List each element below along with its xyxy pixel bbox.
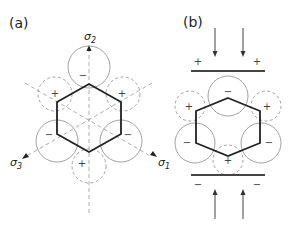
panel-a-label: (a) — [9, 15, 29, 31]
sign-bottom: + — [224, 155, 232, 166]
plate-bottom-sign-right: − — [253, 179, 261, 190]
sign-bottom: + — [78, 158, 86, 169]
arrow-up-icon — [241, 189, 246, 195]
top-arrows — [215, 28, 243, 54]
bottom-arrows — [215, 192, 243, 219]
plate-bottom-sign-left: − — [194, 179, 202, 190]
sign-top: − — [224, 86, 232, 97]
sigma1-label: σ1 — [158, 156, 170, 171]
sign-lower-left: − — [45, 129, 53, 140]
sign-lower-right: − — [265, 137, 273, 148]
sigma1-arrow-icon — [150, 151, 157, 157]
sign-lower-left: − — [183, 137, 191, 148]
sigma2-label: σ2 — [84, 30, 96, 45]
sign-upper-right: + — [118, 88, 126, 99]
sign-lower-right: − — [124, 129, 132, 140]
sign-upper-left: + — [185, 101, 193, 112]
sign-top: − — [79, 70, 87, 81]
sign-upper-right: + — [263, 101, 271, 112]
sigma3-label: σ3 — [10, 156, 22, 171]
sigma3-arrow-icon — [22, 153, 29, 159]
sign-upper-left: + — [51, 88, 59, 99]
plate-top-sign-right: + — [253, 56, 261, 67]
arrow-up-icon — [213, 189, 218, 195]
plate-top-sign-left: + — [194, 56, 202, 67]
panel-b-label: (b) — [183, 14, 203, 30]
hexagon — [196, 98, 260, 156]
diagram: (a) σ2 σ3 σ1 − + + — [0, 0, 291, 227]
arrow-down-icon — [213, 51, 218, 57]
arrow-down-icon — [241, 51, 246, 57]
panel-b: (b) + + − + + − − + — [175, 14, 281, 219]
panel-a: (a) σ2 σ3 σ1 − + + — [9, 15, 170, 215]
